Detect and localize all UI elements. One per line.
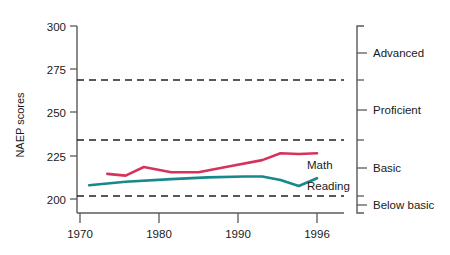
series-line-reading <box>89 177 317 187</box>
y-tick-label-250: 250 <box>47 107 66 119</box>
x-tick-label-1990: 1990 <box>225 228 251 240</box>
series-line-math <box>107 153 317 175</box>
band-label-proficient: Proficient <box>373 104 422 116</box>
x-tick-label-1980: 1980 <box>146 228 172 240</box>
chart-svg: 300 275 250 225 200 NAEP scores 1970 198… <box>0 0 450 255</box>
x-tick-label-1970: 1970 <box>67 228 93 240</box>
series-label-reading: Reading <box>307 180 350 192</box>
series-label-math: Math <box>307 159 333 171</box>
band-label-advanced: Advanced <box>373 47 424 59</box>
band-label-below-basic: Below basic <box>373 199 435 211</box>
y-tick-label-225: 225 <box>47 151 66 163</box>
naep-scores-chart: 300 275 250 225 200 NAEP scores 1970 198… <box>0 0 450 255</box>
x-tick-label-1996: 1996 <box>304 228 330 240</box>
y-tick-label-200: 200 <box>47 194 66 206</box>
y-axis-title: NAEP scores <box>14 92 26 158</box>
y-tick-label-300: 300 <box>47 21 66 33</box>
y-tick-label-275: 275 <box>47 64 66 76</box>
achievement-bracket <box>357 26 364 213</box>
band-label-basic: Basic <box>373 162 401 174</box>
